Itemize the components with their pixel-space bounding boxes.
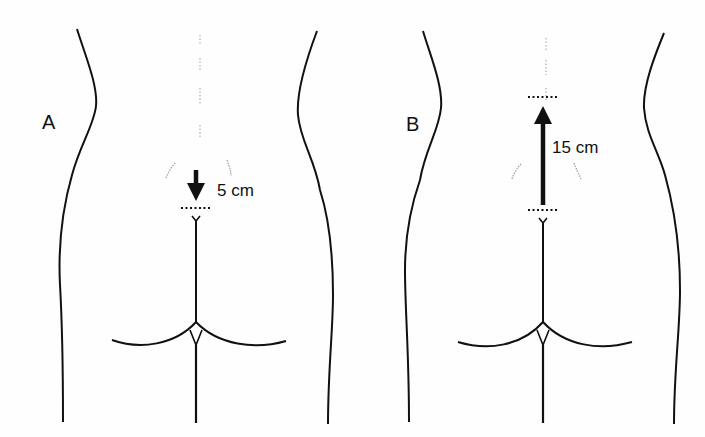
left-body-contour-a bbox=[60, 29, 97, 422]
buttock-crease-right-b bbox=[543, 322, 632, 346]
lower-back-diagram: A 5 cm B 15 cm bbox=[0, 0, 705, 437]
panel-a: A 5 cm bbox=[42, 29, 333, 424]
left-body-contour-b bbox=[405, 31, 441, 422]
panel-label-a: A bbox=[42, 111, 56, 133]
diagram-canvas: A 5 cm B 15 cm bbox=[0, 0, 705, 437]
dimple-right-b bbox=[574, 163, 581, 179]
gluteal-cleft-top-b bbox=[539, 218, 547, 223]
buttock-crease-right-a bbox=[196, 322, 286, 345]
right-body-contour-a bbox=[298, 31, 333, 424]
panel-label-b: B bbox=[406, 113, 419, 135]
measurement-label-b: 15 cm bbox=[552, 138, 598, 157]
measurement-label-a: 5 cm bbox=[217, 181, 254, 200]
buttock-crease-left-b bbox=[458, 322, 543, 346]
buttock-crease-left-a bbox=[112, 322, 196, 345]
panel-b: B 15 cm bbox=[405, 31, 680, 424]
right-body-contour-b bbox=[644, 33, 680, 424]
dimple-right-a bbox=[227, 160, 231, 176]
perineum-b bbox=[537, 330, 549, 345]
perineum-a bbox=[190, 330, 202, 345]
gluteal-cleft-top-a bbox=[192, 216, 200, 221]
dimple-left-a bbox=[166, 162, 176, 178]
dimple-left-b bbox=[512, 164, 521, 179]
